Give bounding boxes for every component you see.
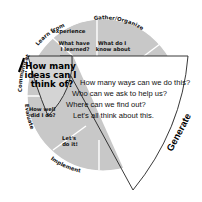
- generate-line-3: Where can we find out?: [66, 100, 146, 109]
- center-idea-question: How many ideas can I think of?: [24, 61, 79, 89]
- generate-line-2: Who can we ask to help us?: [72, 89, 167, 98]
- generate-line-1: How many ways can we do this?: [80, 78, 190, 87]
- learn-question: What have I learned?: [58, 40, 91, 52]
- implement-question: Let's do it!: [62, 135, 78, 147]
- stage-label-learn-2: experience: [52, 28, 86, 35]
- evaluate-question: How well did I do?: [29, 106, 57, 118]
- generate-line-4: Let's all think about this.: [73, 111, 154, 120]
- gather-question: What do I know about: [96, 40, 131, 52]
- cycle-diagram: How many ideas can I think of? What have…: [0, 0, 202, 202]
